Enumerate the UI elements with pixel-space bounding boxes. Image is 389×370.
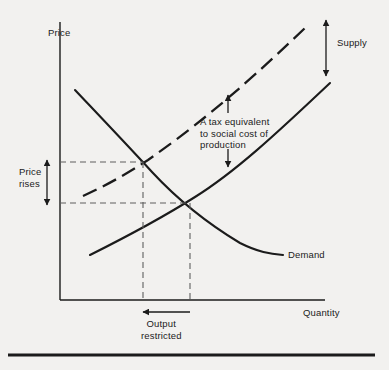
tax-annotation-label: A tax equivalent to social cost of produ… [200, 116, 269, 151]
guide-lines-free-equilibrium [60, 203, 190, 300]
demand-curve [75, 90, 283, 255]
demand-curve-label: Demand [288, 249, 325, 261]
supply-curve [90, 83, 330, 255]
supply-plus-tax-curve [83, 28, 305, 196]
axis-lines [60, 22, 325, 300]
figure-canvas: Price Quantity Supply Demand Price rises… [0, 0, 389, 370]
output-restricted-label: Output restricted [141, 318, 182, 341]
guide-lines-tax-equilibrium [60, 162, 143, 300]
x-axis-label: Quantity [303, 307, 340, 319]
y-axis-label: Price [48, 27, 70, 39]
price-rises-label: Price rises [19, 166, 41, 189]
supply-curve-label: Supply [337, 37, 367, 49]
